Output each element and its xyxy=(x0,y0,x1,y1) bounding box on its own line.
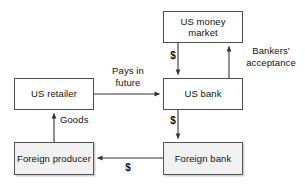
edge-label-foreign-bank-to-foreign-producer: $ xyxy=(122,162,134,174)
node-us-retailer-label: US retailer xyxy=(29,88,79,100)
node-us-money-market: US money market xyxy=(163,11,243,43)
edge-label-pays-in-future: Pays in future xyxy=(100,65,156,88)
node-foreign-producer-label: Foreign producer xyxy=(15,153,93,165)
edge-label-goods: Goods xyxy=(60,114,94,126)
node-foreign-bank: Foreign bank xyxy=(163,142,243,175)
edge-label-money-market-to-us-bank: $ xyxy=(167,50,179,62)
node-foreign-bank-label: Foreign bank xyxy=(173,153,234,165)
edge-label-bankers-acceptance: Bankers' acceptance xyxy=(240,45,302,68)
node-foreign-producer: Foreign producer xyxy=(14,142,94,175)
node-us-bank-label: US bank xyxy=(182,88,223,100)
diagram-canvas: US money market US retailer US bank Fore… xyxy=(0,0,305,184)
node-us-money-market-label: US money market xyxy=(164,16,242,39)
node-us-retailer: US retailer xyxy=(14,78,94,110)
node-us-bank: US bank xyxy=(163,78,243,110)
edge-label-us-bank-to-foreign-bank: $ xyxy=(167,115,179,127)
